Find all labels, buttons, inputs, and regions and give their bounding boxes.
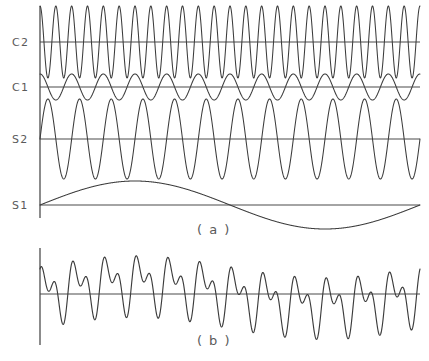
panel-b-caption: ( b ): [197, 333, 231, 348]
series-label-s2: S2: [12, 133, 28, 146]
figure-root: C2 C1 S2 S1 ( a ) ( b ): [0, 0, 429, 361]
waveform-sum: [40, 256, 420, 340]
series-label-c2: C2: [12, 36, 29, 49]
series-label-c1: C1: [12, 81, 29, 94]
series-label-s1: S1: [12, 199, 28, 212]
signal-decomposition-figure: C2 C1 S2 S1 ( a ) ( b ): [0, 0, 429, 361]
panel-a-caption: ( a ): [197, 222, 231, 237]
